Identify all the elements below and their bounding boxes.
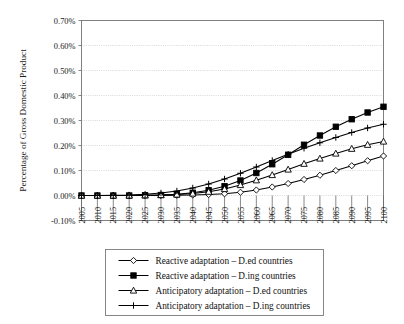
- legend-marker-filled-square-icon: [131, 273, 136, 278]
- series-marker: [333, 167, 339, 173]
- series-marker: [380, 138, 386, 144]
- x-tick-label: 2095: [364, 207, 373, 224]
- x-tick-label: 2020: [125, 207, 134, 224]
- x-tick-label: 2080: [316, 207, 325, 224]
- series-line: [82, 142, 384, 196]
- x-tick-label: 2100: [380, 207, 389, 224]
- x-tick-label: 2055: [237, 207, 246, 224]
- series-marker: [349, 117, 354, 122]
- x-tick-label: 2030: [157, 207, 166, 224]
- y-tick-label: 0.40%: [54, 92, 76, 101]
- series-marker: [253, 187, 259, 193]
- series-3: [78, 138, 386, 198]
- x-tick-label: 2075: [300, 207, 309, 224]
- y-tick-label: 0.60%: [54, 42, 76, 51]
- x-tick-label: 2035: [173, 207, 182, 224]
- series-marker: [285, 180, 291, 186]
- x-tick-label: 2010: [94, 207, 103, 224]
- series-marker: [317, 172, 323, 178]
- series-marker: [380, 153, 386, 159]
- y-tick-label: 0.00%: [54, 192, 76, 201]
- series-2: [79, 104, 386, 198]
- y-tick-label: 0.30%: [54, 117, 76, 126]
- y-tick-label: -0.10%: [51, 217, 75, 226]
- x-tick-label: 2040: [189, 207, 198, 224]
- line-chart: 0.70%0.60%0.50%0.40%0.30%0.20%0.10%0.00%…: [0, 0, 404, 324]
- y-tick-label: 0.70%: [54, 17, 76, 26]
- series-marker: [317, 133, 322, 138]
- legend-label: Anticipatory adaptation – D.ing countrie…: [156, 301, 311, 311]
- chart-container: 0.70%0.60%0.50%0.40%0.30%0.20%0.10%0.00%…: [0, 0, 404, 324]
- x-tick-label: 2090: [348, 207, 357, 224]
- series-marker: [349, 163, 355, 169]
- series-marker: [254, 170, 259, 175]
- legend-label: Reactive adaptation – D.ed countries: [156, 256, 293, 266]
- y-axis-title: Percentage of Gross Domestic Product: [18, 49, 28, 192]
- x-tick-label: 2005: [78, 207, 87, 224]
- legend-label: Reactive adaptation – D.ing countries: [156, 271, 297, 281]
- series-marker: [237, 189, 243, 195]
- series-marker: [269, 184, 275, 190]
- series-marker: [333, 124, 338, 129]
- legend-label: Anticipatory adaptation – D.ed countries: [156, 286, 308, 296]
- y-tick-label: 0.10%: [54, 167, 76, 176]
- series-marker: [301, 176, 307, 182]
- x-tick-label: 2050: [221, 207, 230, 224]
- x-tick-label: 2015: [109, 207, 118, 224]
- x-tick-label: 2060: [253, 207, 262, 224]
- series-marker: [365, 110, 370, 115]
- x-tick-label: 2025: [141, 207, 150, 224]
- y-tick-label: 0.50%: [54, 67, 76, 76]
- plot-frame: [82, 21, 384, 221]
- series-line: [82, 124, 384, 195]
- x-tick-label: 2085: [332, 207, 341, 224]
- x-tick-label: 2065: [268, 207, 277, 224]
- series-marker: [365, 158, 371, 164]
- x-tick-label: 2045: [205, 207, 214, 224]
- series-line: [82, 107, 384, 196]
- x-tick-label: 2070: [284, 207, 293, 224]
- y-tick-label: 0.20%: [54, 142, 76, 151]
- series-marker: [381, 104, 386, 109]
